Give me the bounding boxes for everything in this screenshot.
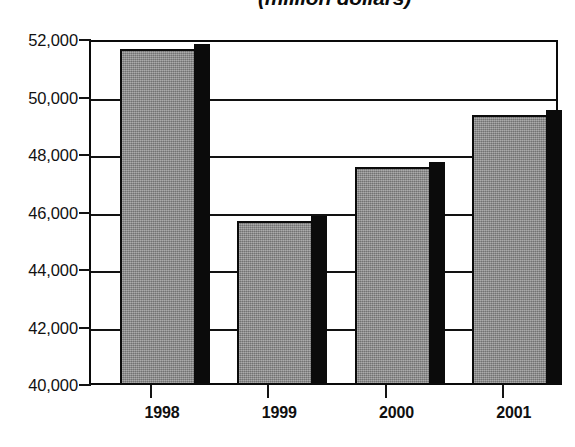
bar-shadow [311, 216, 327, 385]
y-tick-label: 52,000 [0, 31, 78, 50]
y-tick-mark [79, 384, 91, 386]
x-tick-mark [385, 385, 387, 398]
x-tick-mark [150, 385, 152, 398]
x-tick-label-1999: 1999 [219, 404, 339, 422]
x-tick-label-2001: 2001 [454, 404, 574, 422]
y-tick-mark [79, 327, 91, 329]
x-tick-mark [267, 385, 269, 398]
y-tick-label: 48,000 [0, 146, 78, 165]
y-tick-mark [79, 97, 91, 99]
y-tick-mark [79, 154, 91, 156]
x-tick-label-1998: 1998 [102, 404, 222, 422]
y-tick-label: 46,000 [0, 203, 78, 222]
y-tick-label: 50,000 [0, 88, 78, 107]
y-tick-mark [79, 212, 91, 214]
bar-chart-figure: (million dollars) 52,00050,00048,00046,0… [0, 0, 575, 447]
x-tick-label-2000: 2000 [337, 404, 457, 422]
y-tick-label: 40,000 [0, 376, 78, 395]
bar-shadow [546, 110, 562, 385]
x-tick-mark [502, 385, 504, 398]
y-tick-label: 44,000 [0, 261, 78, 280]
bar-2001[interactable] [472, 115, 548, 385]
y-tick-mark [79, 269, 91, 271]
chart-title: (million dollars) [258, 0, 558, 12]
bar-1999[interactable] [237, 221, 313, 385]
bar-shadow [194, 44, 210, 385]
bar-shadow [429, 162, 445, 386]
y-tick-mark [79, 39, 91, 41]
bar-1998[interactable] [120, 49, 196, 385]
y-tick-label: 42,000 [0, 318, 78, 337]
bar-2000[interactable] [355, 167, 431, 386]
